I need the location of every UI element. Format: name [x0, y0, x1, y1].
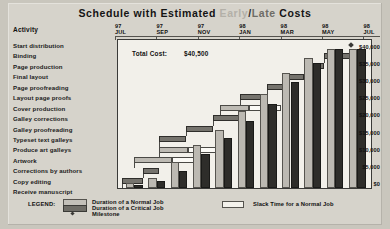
activity-label: Copy editing	[13, 177, 115, 187]
gantt-chart-screenshot: Schedule with Estimated Early/Late Costs…	[0, 0, 390, 229]
title-late: Late	[252, 7, 276, 19]
cost-axis-label: $20,000	[359, 112, 380, 118]
cost-axis-label: $15,000	[359, 130, 380, 136]
cost-axis-label: $0	[374, 181, 380, 187]
activity-label: Galley corrections	[13, 114, 115, 124]
time-tick-mark	[115, 37, 116, 40]
title-early: Early	[220, 7, 249, 19]
time-tick-label: 98MAR	[281, 24, 294, 35]
dependency-connector	[143, 174, 144, 178]
activity-label: Produce art galleys	[13, 145, 115, 155]
late-cost-bar	[246, 121, 254, 188]
dependency-connector	[220, 111, 221, 115]
late-cost-bar	[157, 181, 165, 188]
legend-title: LEGEND:	[28, 201, 56, 207]
title-part1: Schedule with Estimated	[79, 7, 217, 19]
total-cost-label: Total Cost:	[132, 50, 167, 57]
activity-list: Start distributionBindingPage production…	[13, 41, 115, 198]
dependency-connector	[134, 163, 135, 167]
cost-axis-label: $40,000	[359, 44, 380, 50]
dependency-connector	[159, 153, 160, 157]
late-cost-bar	[224, 138, 232, 188]
legend-label-slack: Slack Time for a Normal Job	[253, 201, 334, 207]
activity-label: Layout page proofs	[13, 93, 115, 103]
time-tick-label: 97SEP	[156, 24, 168, 35]
activity-label: Binding	[13, 51, 115, 61]
legend-swatch-slack	[222, 201, 244, 208]
early-cost-bar	[238, 111, 246, 188]
activity-label: Corrections by authors	[13, 166, 115, 176]
late-cost-bar	[201, 154, 209, 188]
activity-label: Typeset text galleys	[13, 135, 115, 145]
early-cost-bar	[304, 58, 312, 188]
cost-axis-label: $5,000	[362, 164, 380, 170]
legend-swatch-critical	[63, 205, 87, 212]
normal-job-bar	[159, 147, 188, 153]
cost-axis-label: $35,000	[359, 61, 380, 67]
cost-axis-label: $10,000	[359, 147, 380, 153]
dependency-connector	[324, 59, 325, 63]
normal-job-bar	[134, 157, 173, 163]
total-cost-caption: Total Cost:$40,500	[132, 50, 209, 57]
critical-job-bar	[213, 115, 240, 121]
early-cost-bar	[148, 178, 156, 188]
dependency-connector	[213, 121, 214, 125]
dependency-connector	[186, 132, 187, 136]
late-cost-bar	[313, 63, 321, 188]
early-cost-bar	[260, 94, 268, 188]
time-tick-label: 98MAY	[322, 24, 335, 35]
late-cost-bar	[268, 104, 276, 188]
dependency-connector	[240, 100, 241, 104]
activity-label: Page production	[13, 62, 115, 72]
page-title: Schedule with Estimated Early/Late Costs	[0, 7, 390, 19]
early-cost-bar	[126, 183, 134, 188]
early-cost-bar	[215, 130, 223, 188]
time-tick-label: 97JUL	[115, 24, 126, 35]
early-cost-bar	[193, 145, 201, 188]
activity-label: Page proofreading	[13, 83, 115, 93]
critical-job-bar	[143, 168, 159, 174]
cost-axis-labels: $0$5,000$10,000$15,000$20,000$25,000$30,…	[327, 39, 383, 187]
legend: LEGEND: Duration of a Normal Job Duratio…	[0, 196, 390, 222]
early-cost-bar	[171, 162, 179, 188]
time-tick-label: 97NOV	[198, 24, 211, 35]
legend-label-milestone: Milestone	[92, 211, 120, 217]
activity-label: Start distribution	[13, 41, 115, 51]
late-cost-bar	[134, 185, 142, 188]
cost-axis-label: $25,000	[359, 95, 380, 101]
critical-job-bar	[186, 126, 213, 132]
title-part2: Costs	[279, 7, 311, 19]
cost-axis-label: $30,000	[359, 78, 380, 84]
late-cost-bar	[291, 82, 299, 188]
activity-label: Cover production	[13, 104, 115, 114]
activity-label: Galley proofreading	[13, 125, 115, 135]
critical-job-bar	[159, 136, 186, 142]
time-tick-label: 98JUL	[363, 24, 374, 35]
dependency-connector	[159, 142, 160, 146]
early-cost-bar	[282, 73, 290, 188]
dependency-connector	[122, 184, 123, 188]
time-tick-label: 98JAN	[239, 24, 251, 35]
late-cost-bar	[179, 171, 187, 188]
activity-label: Final layout	[13, 72, 115, 82]
legend-swatch-milestone	[70, 211, 74, 215]
activity-label: Artwork	[13, 156, 115, 166]
total-cost-value: $40,500	[184, 50, 209, 57]
